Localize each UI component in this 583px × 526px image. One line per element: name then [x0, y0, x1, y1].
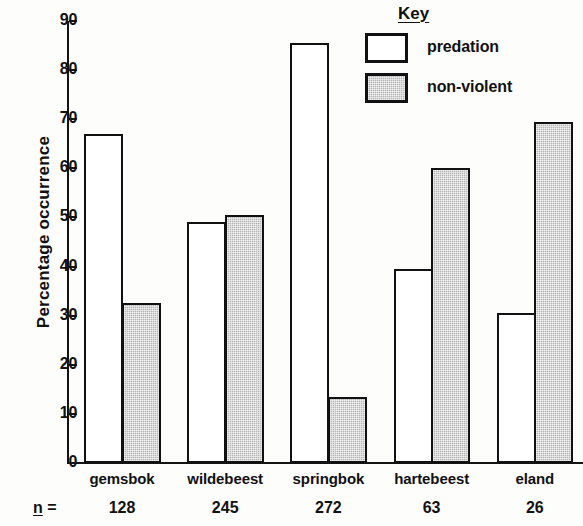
legend-title: Key: [398, 4, 429, 24]
bar-predation-eland: [497, 313, 536, 463]
sample-size-eland: 26: [475, 499, 583, 517]
bar-nonviolent-springbok: [328, 397, 367, 463]
bar-predation-gemsbok: [84, 134, 123, 463]
y-axis-tick: 10: [0, 413, 77, 415]
x-axis-label-wildebeest: wildebeest: [165, 470, 285, 487]
sample-size-gemsbok: 128: [62, 499, 182, 517]
sample-size-equals-symbol: =: [47, 499, 56, 516]
bar-nonviolent-gemsbok: [122, 303, 161, 463]
y-axis-tick: 60: [0, 167, 77, 169]
sample-size-springbok: 272: [268, 499, 388, 517]
bar-nonviolent-wildebeest: [225, 215, 264, 463]
sample-size-wildebeest: 245: [165, 499, 285, 517]
sample-size-hartebeest: 63: [372, 499, 492, 517]
y-axis-tick: 50: [0, 216, 77, 218]
y-axis-tick: 30: [0, 315, 77, 317]
y-axis-tick: 0: [0, 462, 77, 464]
x-axis-label-eland: eland: [475, 470, 583, 487]
bar-predation-springbok: [290, 43, 329, 463]
x-axis-label-springbok: springbok: [268, 470, 388, 487]
sample-size-prefix: n =: [33, 499, 57, 517]
sample-size-n-symbol: n: [33, 499, 43, 516]
x-axis-label-gemsbok: gemsbok: [62, 470, 182, 487]
legend-swatch-nonviolent-icon: [365, 73, 408, 103]
y-axis-title: Percentage occurrence: [34, 102, 54, 362]
y-axis-tick: 20: [0, 364, 77, 366]
x-axis-label-hartebeest: hartebeest: [372, 470, 492, 487]
bar-predation-wildebeest: [187, 222, 226, 463]
bar-nonviolent-eland: [534, 122, 573, 463]
bar-chart-figure: Percentage occurrence 010203040506070809…: [0, 0, 583, 526]
legend-label-nonviolent: non-violent: [427, 78, 512, 96]
legend-label-predation: predation: [427, 38, 499, 56]
bar-nonviolent-hartebeest: [431, 168, 470, 463]
y-axis-tick: 40: [0, 266, 77, 268]
legend-swatch-predation-icon: [365, 33, 408, 63]
bar-predation-hartebeest: [394, 269, 433, 463]
y-axis-tick: 70: [0, 118, 77, 120]
y-axis-tick: 90: [0, 20, 77, 22]
y-axis-tick: 80: [0, 69, 77, 71]
